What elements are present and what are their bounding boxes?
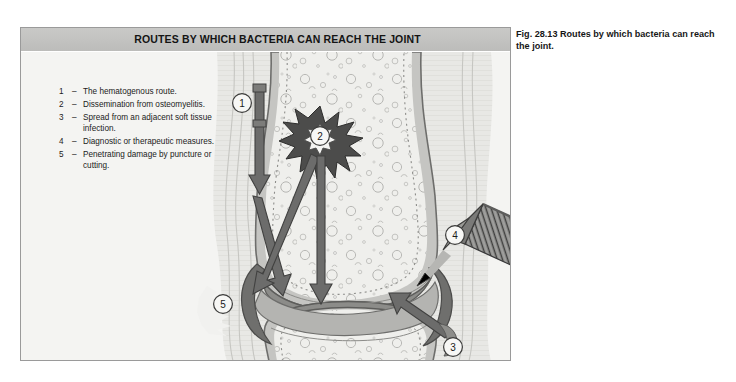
legend-item-text: Dissemination from osteomyelitis. [83, 99, 224, 111]
marker-3: 3 [444, 338, 463, 357]
legend-item: 1 – The hematogenous route. [59, 86, 224, 98]
legend-item: 2 – Dissemination from osteomyelitis. [59, 99, 224, 111]
svg-text:3: 3 [450, 342, 456, 353]
legend-item-number: 1 [59, 86, 72, 98]
marker-1: 1 [233, 94, 252, 113]
legend-item-number: 3 [59, 112, 72, 135]
legend-item-number: 4 [59, 136, 72, 148]
knee-joint-illustration: 1 2 3 4 5 [21, 28, 511, 361]
legend-item-text: Penetrating damage by puncture or cuttin… [83, 149, 224, 172]
svg-text:1: 1 [239, 98, 245, 109]
femur-marrow [265, 52, 427, 300]
marker-4: 4 [446, 226, 465, 245]
legend-item-dash: – [72, 99, 83, 111]
svg-text:4: 4 [452, 230, 458, 241]
legend-item-dash: – [72, 112, 83, 135]
marker-2: 2 [311, 127, 330, 146]
figure-panel: ROUTES BY WHICH BACTERIA CAN REACH THE J… [20, 27, 511, 361]
svg-text:5: 5 [220, 299, 226, 310]
legend-item-dash: – [72, 86, 83, 98]
legend-item-number: 5 [59, 149, 72, 172]
legend-item-dash: – [72, 149, 83, 172]
legend-item: 3 – Spread from an adjacent soft tissue … [59, 112, 224, 135]
marker-5: 5 [214, 295, 233, 314]
legend-item: 4 – Diagnostic or therapeutic measures. [59, 136, 224, 148]
legend-item: 5 – Penetrating damage by puncture or cu… [59, 149, 224, 172]
legend-list: 1 – The hematogenous route. 2 – Dissemin… [59, 86, 224, 173]
legend-item-number: 2 [59, 99, 72, 111]
svg-text:2: 2 [317, 131, 323, 142]
legend-item-text: Spread from an adjacent soft tissue infe… [83, 112, 224, 135]
legend-item-text: The hematogenous route. [83, 86, 224, 98]
figure-caption: Fig. 28.13 Routes by which bacteria can … [516, 28, 722, 53]
legend-item-text: Diagnostic or therapeutic measures. [83, 136, 224, 148]
legend-item-dash: – [72, 136, 83, 148]
